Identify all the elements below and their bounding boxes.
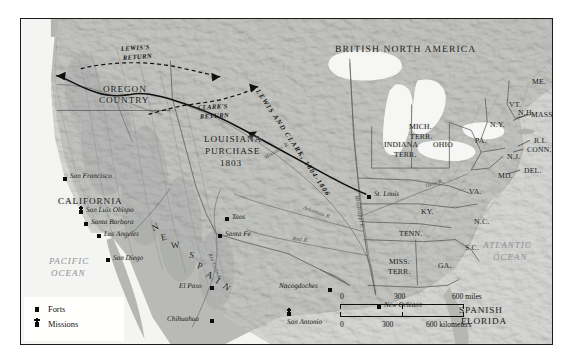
scale-km-mid: 300 — [382, 320, 393, 329]
scale-miles-zero: 0 — [340, 292, 344, 301]
city-marker-san-francisco — [63, 177, 67, 181]
city-marker-taos — [225, 217, 229, 221]
map-legend: Forts Missions — [24, 297, 124, 341]
city-marker-st-louis — [367, 195, 371, 199]
city-marker-san-antonio — [287, 312, 291, 316]
scale-miles-max: 600 miles — [452, 292, 482, 301]
legend-item-forts: Forts — [30, 302, 118, 317]
city-marker-santa-barbara — [84, 222, 88, 226]
city-marker-san-diego — [106, 258, 110, 262]
city-marker-el-paso — [210, 286, 214, 290]
mission-icon — [30, 322, 44, 326]
legend-label-forts: Forts — [44, 305, 65, 314]
scale-rule-kilometers — [340, 312, 464, 317]
scale-miles-mid: 300 — [394, 292, 405, 301]
scale-km-max: 600 kilometers — [426, 320, 471, 329]
legend-label-missions: Missions — [44, 320, 78, 329]
city-marker-los-angeles — [97, 234, 101, 238]
city-marker-san-luis-obispo — [79, 210, 83, 214]
scale-km-zero: 0 — [340, 320, 344, 329]
map-page: BRITISH NORTH AMERICA OREGON COUNTRY LOU… — [0, 0, 574, 361]
city-marker-nacogdoches — [328, 288, 332, 292]
scale-rule-miles — [340, 304, 464, 309]
fort-icon — [30, 307, 44, 311]
city-marker-santa-fe — [218, 234, 222, 238]
scale-miles-numbers: 0 300 600 miles — [340, 292, 500, 302]
city-marker-chihuahua — [210, 319, 214, 323]
map-scale-bar: 0 300 600 miles 0 300 600 kilometers — [340, 292, 500, 338]
legend-item-missions: Missions — [30, 317, 118, 332]
scale-km-numbers: 0 300 600 kilometers — [340, 320, 500, 330]
